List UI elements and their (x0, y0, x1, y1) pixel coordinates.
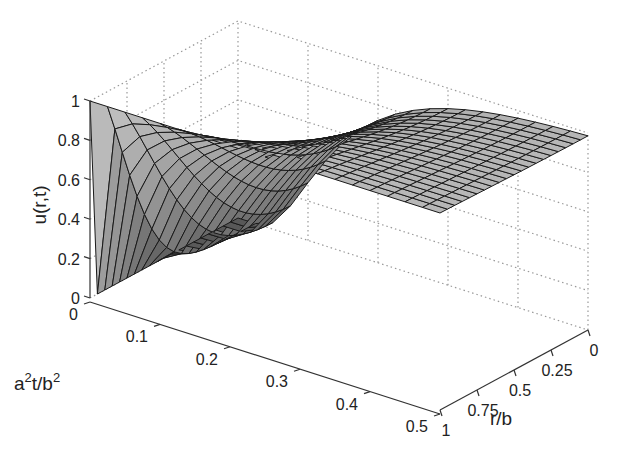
z-tick-label: 0.6 (58, 172, 80, 189)
t-axis-label: a2t/b2 (14, 370, 60, 394)
surface-mesh (90, 101, 588, 294)
t-tick-label: 0.3 (266, 373, 288, 390)
z-tick-label: 0.8 (58, 132, 80, 149)
r-tick-label: 0 (590, 342, 599, 359)
z-tick-label: 0.4 (58, 211, 80, 228)
r-axis-label: r/b (490, 408, 512, 429)
surface-plot: 00.20.40.60.8100.10.20.30.40.500.250.50.… (0, 0, 634, 455)
r-tick-label: 0.5 (509, 382, 531, 399)
z-tick-label: 0 (71, 290, 80, 307)
t-tick-label: 0.5 (406, 418, 428, 435)
r-tick-label: 1 (442, 422, 451, 439)
t-tick-label: 0.2 (196, 351, 218, 368)
r-tick-label: 0.25 (541, 362, 572, 379)
t-tick-label: 0 (69, 306, 78, 323)
z-tick-label: 0.2 (58, 251, 80, 268)
z-tick-label: 1 (71, 93, 80, 110)
t-tick-label: 0.4 (336, 396, 358, 413)
surface-plot-figure: 00.20.40.60.8100.10.20.30.40.500.250.50.… (0, 0, 634, 455)
t-tick-label: 0.1 (126, 328, 148, 345)
z-axis-label: u(r,t) (29, 185, 50, 224)
